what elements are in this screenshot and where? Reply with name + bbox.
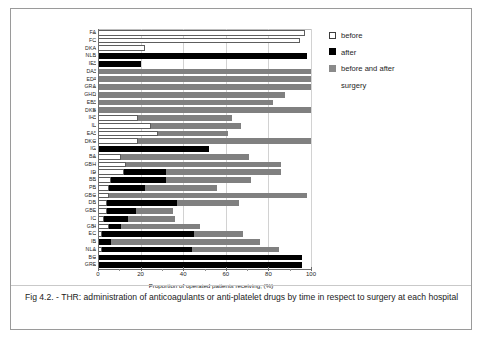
bar-segment-before xyxy=(98,138,138,144)
bar-segment-both xyxy=(138,138,311,144)
bar-segment-both xyxy=(98,84,311,90)
x-axis-minor-tick xyxy=(205,269,206,271)
bar-segment-before xyxy=(98,154,121,160)
y-axis-tick xyxy=(93,211,96,212)
bar-segment-before xyxy=(98,169,124,175)
x-axis-minor-tick xyxy=(247,269,248,271)
bar-segment-after xyxy=(111,177,166,183)
y-axis-tick xyxy=(93,180,96,181)
bar-segment-both xyxy=(177,200,239,206)
bar-row xyxy=(98,146,311,152)
bar-segment-both xyxy=(98,92,285,98)
bar-segment-both xyxy=(138,115,232,121)
bar-segment-after xyxy=(98,255,302,261)
y-axis-tick xyxy=(93,219,96,220)
bar-row xyxy=(98,138,311,144)
y-axis-tick xyxy=(93,172,96,173)
bar-segment-after xyxy=(98,61,141,67)
gridline xyxy=(311,29,312,269)
bar-segment-both xyxy=(98,107,311,113)
bar-segment-after xyxy=(98,146,209,152)
y-axis-tick xyxy=(93,118,96,119)
bar-row xyxy=(98,131,311,137)
bar-segment-before xyxy=(98,185,109,191)
x-axis-label: 60 xyxy=(222,271,229,277)
bar-row xyxy=(98,45,311,51)
bar-segment-before xyxy=(98,45,145,51)
y-axis-tick xyxy=(93,95,96,96)
bars-canvas xyxy=(98,29,311,269)
bar-segment-both xyxy=(121,224,200,230)
y-axis-tick xyxy=(93,195,96,196)
y-axis-tick xyxy=(93,134,96,135)
bar-segment-after xyxy=(109,185,145,191)
y-axis-tick xyxy=(93,234,96,235)
bar-row xyxy=(98,154,311,160)
y-axis-tick xyxy=(93,149,96,150)
figure-container: FAFCDKANLBIE*DA*ED*GRAGHDEB*DKBIH*ILEA*D… xyxy=(10,8,472,330)
bar-segment-both xyxy=(194,231,243,237)
x-axis-label: 20 xyxy=(137,271,144,277)
caption-divider xyxy=(11,285,471,286)
bar-row xyxy=(98,255,311,261)
bar-row xyxy=(98,185,311,191)
bar-segment-after xyxy=(102,247,191,253)
bar-segment-both xyxy=(151,123,240,129)
bar-segment-both xyxy=(136,208,172,214)
y-axis-line xyxy=(98,29,99,269)
y-axis-tick xyxy=(93,257,96,258)
chart-legend: before after before and after surgery xyxy=(329,31,469,90)
legend-label-after: after xyxy=(341,48,356,57)
y-axis-tick xyxy=(93,242,96,243)
y-axis-tick xyxy=(93,188,96,189)
bar-row xyxy=(98,169,311,175)
bar-segment-after xyxy=(124,169,167,175)
y-axis-tick xyxy=(93,126,96,127)
bar-segment-before xyxy=(98,123,151,129)
y-axis-tick xyxy=(93,33,96,34)
legend-item-before-and-after: before and after xyxy=(329,64,469,73)
y-axis-tick xyxy=(93,265,96,266)
bar-row xyxy=(98,224,311,230)
bar-segment-after xyxy=(102,231,194,237)
bar-row xyxy=(98,208,311,214)
legend-label-before: before xyxy=(341,31,363,40)
y-axis-tick xyxy=(93,79,96,80)
bar-row xyxy=(98,216,311,222)
bar-segment-after xyxy=(98,239,111,245)
x-axis-label: 100 xyxy=(306,271,316,277)
bar-segment-both xyxy=(98,100,273,106)
bar-row xyxy=(98,76,311,82)
bar-segment-both xyxy=(158,131,228,137)
legend-swatch-both-icon xyxy=(329,65,336,72)
bar-row xyxy=(98,200,311,206)
bar-segment-before xyxy=(98,224,109,230)
bar-segment-before xyxy=(98,177,111,183)
x-axis-minor-tick xyxy=(290,269,291,271)
legend-swatch-before-icon xyxy=(329,32,336,39)
bar-row xyxy=(98,231,311,237)
bar-segment-before xyxy=(98,30,305,36)
legend-label-before-and-after: before and after xyxy=(341,64,395,73)
x-axis-minor-tick xyxy=(119,269,120,271)
y-axis-tick xyxy=(93,141,96,142)
bar-segment-after xyxy=(107,200,177,206)
bar-segment-both xyxy=(111,239,260,245)
bar-row xyxy=(98,115,311,121)
bar-row xyxy=(98,162,311,168)
bar-row xyxy=(98,53,311,59)
y-axis-tick xyxy=(93,164,96,165)
legend-item-before: before xyxy=(329,31,469,40)
y-axis-tick xyxy=(93,41,96,42)
bar-row xyxy=(98,123,311,129)
bar-row xyxy=(98,262,311,268)
bar-segment-both xyxy=(166,177,251,183)
legend-label-surgery: surgery xyxy=(341,81,469,90)
y-axis-tick xyxy=(93,87,96,88)
x-axis-label: 80 xyxy=(265,271,272,277)
bar-segment-after xyxy=(98,262,302,268)
bar-row xyxy=(98,177,311,183)
bar-row xyxy=(98,84,311,90)
y-axis-tick xyxy=(93,226,96,227)
y-axis-tick xyxy=(93,72,96,73)
